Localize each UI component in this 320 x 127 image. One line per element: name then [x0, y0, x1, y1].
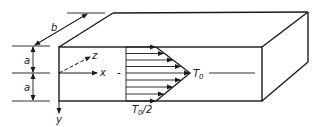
top-right-edge	[262, 12, 308, 47]
dimension-b	[12, 13, 105, 46]
top-left-edge	[59, 13, 113, 47]
b-label: b	[51, 22, 57, 33]
bottom-right-edge	[262, 62, 308, 101]
t0-label: T0	[193, 68, 204, 81]
y-axis-label: y	[55, 114, 63, 125]
x-axis-label: x	[99, 67, 106, 78]
b-dimension-line-down	[35, 14, 87, 45]
coordinate-axes	[59, 57, 97, 113]
minus-sign: -	[117, 67, 121, 78]
profile-envelope	[156, 47, 190, 101]
temperature-profile	[126, 47, 255, 101]
back-top-edge	[113, 12, 308, 13]
slab-diagram: b a a x z y -	[0, 0, 320, 127]
t0-half-label: T0/2	[132, 104, 152, 117]
front-face	[59, 47, 262, 101]
z-axis-label: z	[91, 50, 98, 61]
diagram-svg: b a a x z y -	[0, 0, 320, 127]
a-lower-label: a	[24, 82, 30, 93]
dimension-a	[12, 47, 50, 101]
a-upper-label: a	[24, 55, 30, 66]
z-axis-arrow	[59, 57, 90, 73]
